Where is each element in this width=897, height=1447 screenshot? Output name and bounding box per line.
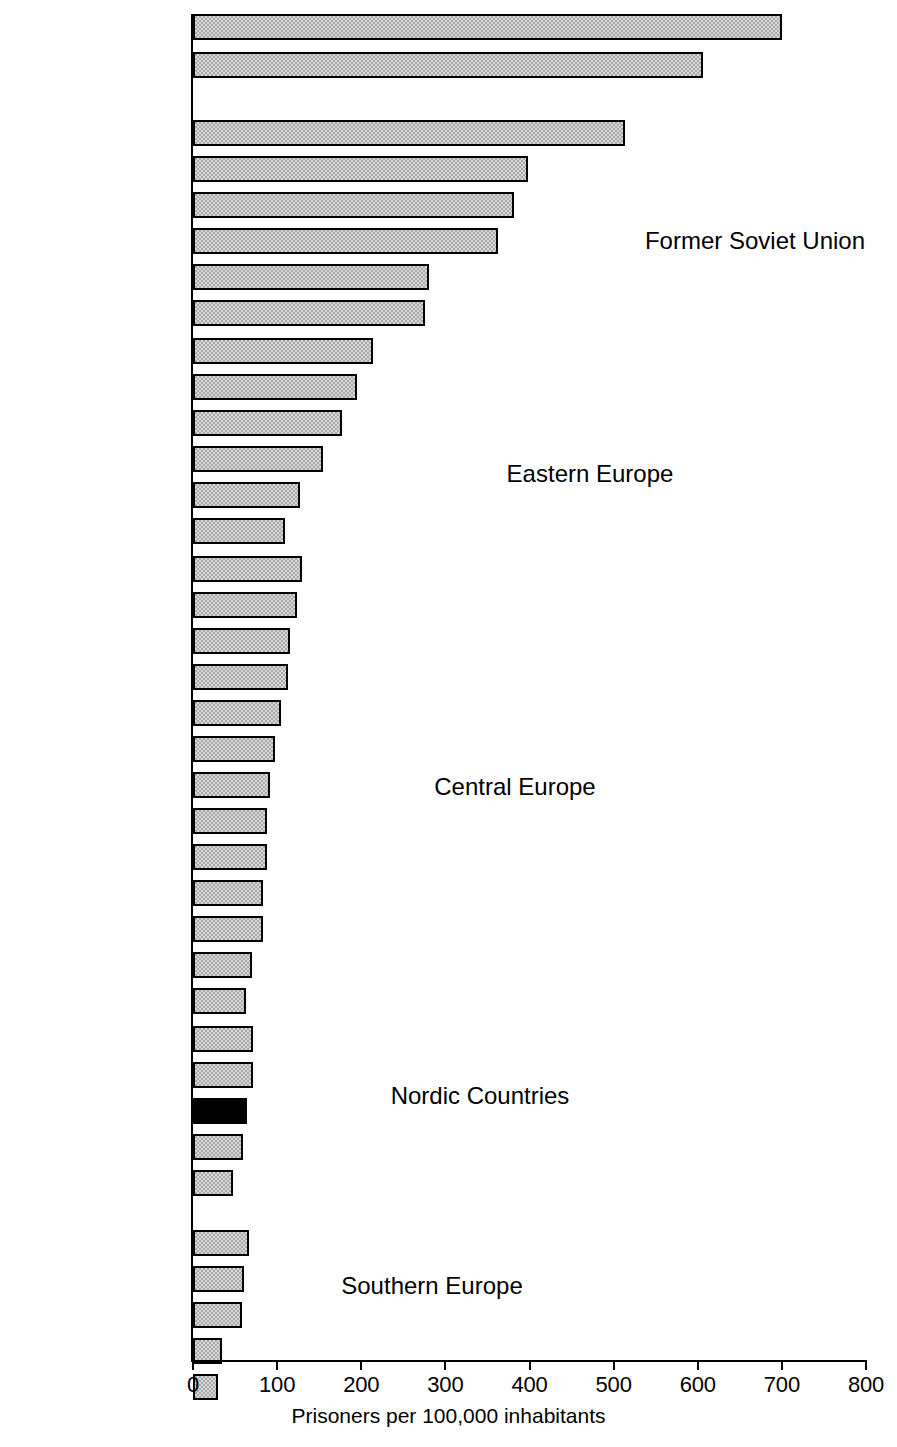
- axis-tick-label: 0: [153, 1372, 233, 1398]
- bar: [193, 1170, 233, 1196]
- bar: [193, 1098, 247, 1124]
- bar: [193, 556, 302, 582]
- bar: [193, 1134, 243, 1160]
- bar: [193, 700, 281, 726]
- bar: [193, 1230, 249, 1256]
- bar: [193, 808, 267, 834]
- bar: [193, 338, 373, 364]
- bar: [193, 988, 246, 1014]
- bar: [193, 264, 429, 290]
- bar: [193, 482, 300, 508]
- bar: [193, 1062, 253, 1088]
- axis-tick-label: 300: [405, 1372, 485, 1398]
- bar: [193, 52, 703, 78]
- axis-tick: [781, 1362, 783, 1370]
- bar: [193, 14, 782, 40]
- axis-tick: [444, 1362, 446, 1370]
- bar: [193, 1302, 242, 1328]
- bar: [193, 374, 357, 400]
- axis-tick: [697, 1362, 699, 1370]
- bar: [193, 772, 270, 798]
- group-label: Nordic Countries: [391, 1082, 570, 1110]
- bar: [193, 952, 252, 978]
- bar: [193, 664, 288, 690]
- bar: [193, 844, 267, 870]
- bar: [193, 880, 263, 906]
- axis-tick: [865, 1362, 867, 1370]
- axis-tick: [276, 1362, 278, 1370]
- bar: [193, 300, 425, 326]
- axis-tick-label: 600: [658, 1372, 738, 1398]
- x-axis-title: Prisoners per 100,000 inhabitants: [0, 1404, 897, 1428]
- axis-tick-label: 700: [742, 1372, 822, 1398]
- prisoner-rate-bar-chart: Russian FederationUSABelarusUkraineLatvi…: [0, 0, 897, 1447]
- group-label: Central Europe: [434, 773, 595, 801]
- axis-tick: [360, 1362, 362, 1370]
- group-label: Former Soviet Union: [645, 227, 865, 255]
- bar: [193, 736, 275, 762]
- bar: [193, 592, 297, 618]
- axis-tick-label: 800: [826, 1372, 897, 1398]
- bar: [193, 518, 285, 544]
- bar: [193, 916, 263, 942]
- axis-tick-label: 500: [574, 1372, 654, 1398]
- axis-tick: [529, 1362, 531, 1370]
- axis-tick-label: 200: [321, 1372, 401, 1398]
- axis-tick-label: 400: [490, 1372, 570, 1398]
- bar: [193, 410, 342, 436]
- axis-tick: [192, 1362, 194, 1370]
- axis-tick: [613, 1362, 615, 1370]
- group-label: Eastern Europe: [507, 460, 674, 488]
- bar: [193, 628, 290, 654]
- bar: [193, 1026, 253, 1052]
- axis-tick-label: 100: [237, 1372, 317, 1398]
- bar: [193, 192, 514, 218]
- bar: [193, 228, 498, 254]
- bar: [193, 446, 323, 472]
- group-label: Southern Europe: [341, 1272, 522, 1300]
- bar: [193, 120, 625, 146]
- bar: [193, 156, 528, 182]
- bar: [193, 1266, 244, 1292]
